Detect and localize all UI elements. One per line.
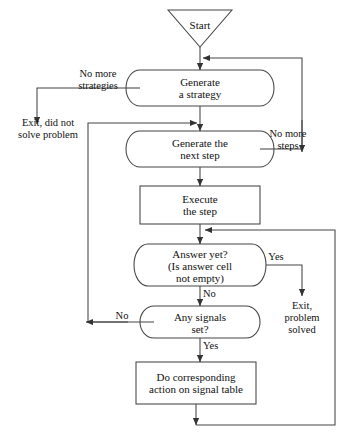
any-signals-shape bbox=[140, 306, 260, 338]
flowchart-graphics bbox=[0, 0, 357, 439]
flowchart-canvas: Start Generate a strategy Generate the n… bbox=[0, 0, 357, 439]
edge-no-more-strategies bbox=[37, 88, 126, 124]
execute-step-shape bbox=[140, 186, 260, 224]
edge-answer-yes-exit bbox=[266, 265, 302, 296]
generate-next-step-shape bbox=[126, 131, 274, 167]
generate-strategy-shape bbox=[126, 70, 274, 106]
start-triangle bbox=[168, 10, 232, 47]
answer-yet-shape bbox=[134, 244, 266, 286]
signal-action-shape bbox=[136, 362, 256, 404]
